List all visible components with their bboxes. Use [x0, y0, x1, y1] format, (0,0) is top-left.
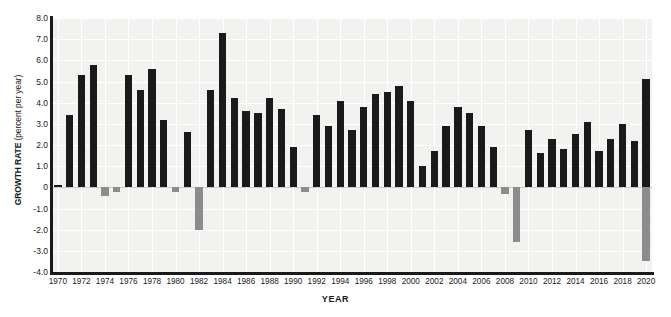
- x-tick-label: 2014: [566, 277, 584, 286]
- gridline-vertical: [434, 18, 435, 272]
- bar-2017: [607, 139, 614, 188]
- bar-1993: [325, 126, 332, 187]
- bar-1978: [148, 69, 155, 188]
- bar-2016: [595, 151, 602, 187]
- bar-1983: [207, 90, 214, 187]
- y-tick-label: 3.0: [2, 119, 48, 129]
- bar-2007: [490, 147, 497, 187]
- y-tick-label: 7.0: [2, 34, 48, 44]
- bar-1980: [172, 187, 179, 191]
- bar-2005: [466, 113, 473, 187]
- x-axis-title: YEAR: [0, 294, 671, 304]
- growth-rate-bar-chart: GROWTH RATE (percent per year) 8.07.06.0…: [0, 0, 671, 317]
- x-tick-label: 2004: [449, 277, 467, 286]
- bar-1987: [254, 113, 261, 187]
- y-tick-label: 0: [2, 182, 48, 192]
- y-tick-label: -3.0: [2, 246, 48, 256]
- y-tick-label: -2.0: [2, 225, 48, 235]
- x-tick-label: 1996: [355, 277, 373, 286]
- gridline-horizontal: [52, 82, 652, 83]
- zero-baseline: [52, 187, 652, 188]
- bar-2003: [442, 126, 449, 187]
- x-tick-label: 2012: [543, 277, 561, 286]
- bar-1985: [231, 98, 238, 187]
- y-axis-line: [50, 16, 53, 274]
- bar-1979: [160, 120, 167, 188]
- x-tick-label: 2018: [613, 277, 631, 286]
- gridline-horizontal: [52, 251, 652, 252]
- bar-1999: [395, 86, 402, 188]
- x-axis-tick-labels: 1970197219741976197819801982198419861988…: [0, 277, 671, 293]
- gridline-vertical: [599, 18, 600, 272]
- gridline-horizontal: [52, 39, 652, 40]
- bar-2001: [419, 166, 426, 187]
- gridline-vertical: [105, 18, 106, 272]
- x-tick-label: 1970: [49, 277, 67, 286]
- bar-1990: [290, 147, 297, 187]
- gridline-vertical: [176, 18, 177, 272]
- x-tick-label: 2010: [519, 277, 537, 286]
- x-tick-label: 2008: [496, 277, 514, 286]
- gridline-vertical: [199, 18, 200, 272]
- bar-2011: [537, 153, 544, 187]
- bar-1986: [242, 111, 249, 187]
- gridline-vertical: [293, 18, 294, 272]
- x-tick-label: 1980: [166, 277, 184, 286]
- bar-1994: [337, 101, 344, 188]
- bar-2009: [513, 187, 520, 242]
- x-tick-label: 1976: [119, 277, 137, 286]
- bar-1989: [278, 109, 285, 187]
- bar-2019: [631, 141, 638, 188]
- bar-1995: [348, 130, 355, 187]
- y-tick-label: 2.0: [2, 140, 48, 150]
- bar-1976: [125, 75, 132, 187]
- gridline-horizontal: [52, 209, 652, 210]
- x-tick-label: 2020: [637, 277, 655, 286]
- bar-2000: [407, 101, 414, 188]
- x-tick-label: 1982: [190, 277, 208, 286]
- x-tick-label: 1994: [331, 277, 349, 286]
- x-tick-label: 2002: [425, 277, 443, 286]
- bar-2006: [478, 126, 485, 187]
- x-tick-label: 2016: [590, 277, 608, 286]
- x-tick-label: 1974: [96, 277, 114, 286]
- x-axis-line: [50, 272, 654, 275]
- bar-1981: [184, 132, 191, 187]
- y-tick-label: -4.0: [2, 267, 48, 277]
- bar-1977: [137, 90, 144, 187]
- bar-1997: [372, 94, 379, 187]
- y-tick-label: 8.0: [2, 13, 48, 23]
- plot-area: [52, 18, 652, 272]
- y-tick-label: 5.0: [2, 77, 48, 87]
- bar-1988: [266, 98, 273, 187]
- bar-2002: [431, 151, 438, 187]
- bar-2018: [619, 124, 626, 188]
- bar-1996: [360, 107, 367, 187]
- x-tick-label: 1998: [378, 277, 396, 286]
- bar-1972: [78, 75, 85, 187]
- bar-negative-2020: [642, 187, 649, 261]
- y-tick-label: 6.0: [2, 55, 48, 65]
- x-tick-label: 2006: [472, 277, 490, 286]
- bar-2012: [548, 139, 555, 188]
- bar-1984: [219, 33, 226, 188]
- gridline-vertical: [505, 18, 506, 272]
- x-tick-label: 1984: [213, 277, 231, 286]
- x-tick-label: 1988: [261, 277, 279, 286]
- bar-2008: [501, 187, 508, 193]
- gridline-horizontal: [52, 230, 652, 231]
- x-tick-label: 2000: [402, 277, 420, 286]
- gridline-horizontal: [52, 60, 652, 61]
- bar-2015: [584, 122, 591, 188]
- y-tick-label: 1.0: [2, 161, 48, 171]
- gridline-horizontal: [52, 18, 652, 19]
- bar-1982: [195, 187, 202, 229]
- bar-1975: [113, 187, 120, 191]
- x-tick-label: 1978: [143, 277, 161, 286]
- y-tick-label: 4.0: [2, 98, 48, 108]
- bar-1970: [54, 185, 61, 187]
- bar-1974: [101, 187, 108, 195]
- bar-2013: [560, 149, 567, 187]
- bar-2020: [642, 79, 649, 187]
- y-axis-tick-labels: 8.07.06.05.04.03.02.01.00-1.0-2.0-3.0-4.…: [0, 0, 48, 317]
